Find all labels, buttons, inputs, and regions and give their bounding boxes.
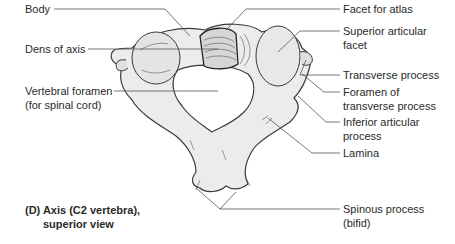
figure-caption: (D) Axis (C2 vertebra), xyxy=(25,204,140,217)
label-dens-of-axis: Dens of axis xyxy=(25,43,86,56)
label-inferior-articular-process-2: process xyxy=(343,130,382,143)
label-transverse-process: Transverse process xyxy=(343,69,439,82)
label-foramen-of-transverse-process: Foramen of xyxy=(343,86,399,99)
figure-caption-2: superior view xyxy=(43,218,114,231)
label-facet-for-atlas: Facet for atlas xyxy=(343,3,413,16)
label-spinous-process: Spinous process xyxy=(343,203,424,216)
left-superior-facet xyxy=(132,32,180,84)
label-inferior-articular-process: Inferior articular xyxy=(343,116,419,129)
label-body: Body xyxy=(25,3,50,16)
dens xyxy=(200,28,238,69)
label-vertebral-foramen-note: (for spinal cord) xyxy=(25,99,101,112)
label-vertebral-foramen: Vertebral foramen xyxy=(25,85,112,98)
label-superior-articular-facet-2: facet xyxy=(343,39,367,52)
label-foramen-of-transverse-process-2: transverse process xyxy=(343,100,436,113)
label-lamina: Lamina xyxy=(343,147,379,160)
right-superior-facet xyxy=(256,26,300,86)
label-spinous-process-2: (bifid) xyxy=(343,217,371,230)
label-superior-articular-facet: Superior articular xyxy=(343,25,427,38)
